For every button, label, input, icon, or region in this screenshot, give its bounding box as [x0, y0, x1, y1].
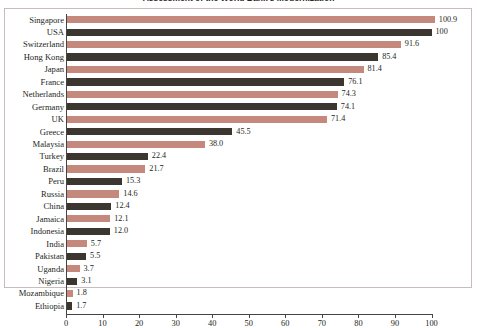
bar-row: Ethiopia1.7	[0, 300, 477, 313]
category-label: Uganda	[0, 263, 64, 276]
bar	[66, 16, 435, 23]
category-label: Jamaica	[0, 213, 64, 226]
bar-value-label: 3.7	[80, 263, 94, 276]
x-axis-tick	[212, 314, 213, 318]
x-axis-tick	[103, 314, 104, 318]
bar-row: Uganda3.7	[0, 263, 477, 276]
bar	[66, 278, 77, 285]
category-label: Nigeria	[0, 275, 64, 288]
category-label: Hong Kong	[0, 51, 64, 64]
x-axis-tick-label: 30	[171, 319, 179, 328]
bar-value-label: 12.1	[110, 213, 128, 226]
bar-value-label: 14.6	[119, 188, 137, 201]
bar	[66, 153, 148, 160]
category-label: Turkey	[0, 150, 64, 163]
bar	[66, 53, 378, 60]
category-label: Peru	[0, 175, 64, 188]
bar-row: Peru15.3	[0, 175, 477, 188]
category-label: China	[0, 200, 64, 213]
category-label: Singapore	[0, 14, 64, 27]
bar-value-label: 100.9	[435, 14, 457, 27]
bar-value-label: 5.5	[86, 250, 100, 263]
bar	[66, 66, 364, 73]
bar-row: USA100	[0, 26, 477, 39]
bar-value-label: 3.1	[77, 275, 91, 288]
bar-value-label: 5.7	[87, 238, 101, 251]
x-axis-tick	[139, 314, 140, 318]
category-label: Russia	[0, 188, 64, 201]
bar-row: Russia14.6	[0, 188, 477, 201]
bar-row: Hong Kong85.4	[0, 51, 477, 64]
bar-row: France76.1	[0, 76, 477, 89]
bar	[66, 116, 327, 123]
bar-value-label: 74.1	[337, 101, 355, 114]
bar-row: Nigeria3.1	[0, 275, 477, 288]
bar-value-label: 71.4	[327, 113, 345, 126]
x-axis-tick	[66, 314, 67, 318]
x-axis-tick-label: 100	[425, 319, 438, 328]
bar	[66, 165, 145, 172]
bar	[66, 265, 80, 272]
bar-row: Brazil21.7	[0, 163, 477, 176]
category-label: Brazil	[0, 163, 64, 176]
bar-row: Indonesia12.0	[0, 225, 477, 238]
x-axis-tick-label: 20	[135, 319, 143, 328]
x-axis-tick-label: 70	[318, 319, 326, 328]
bar	[66, 41, 401, 48]
bar	[66, 178, 122, 185]
bar-value-label: 15.3	[122, 175, 140, 188]
bar	[66, 128, 232, 135]
bar-value-label: 12.0	[110, 225, 128, 238]
bar-value-label: 22.4	[148, 150, 166, 163]
bar-row: Turkey22.4	[0, 150, 477, 163]
bar-row: Jamaica12.1	[0, 213, 477, 226]
category-label: India	[0, 238, 64, 251]
y-axis-line	[66, 14, 67, 315]
bar	[66, 190, 119, 197]
category-label: Greece	[0, 126, 64, 139]
bar-value-label: 100	[432, 26, 448, 39]
x-axis-tick-label: 0	[64, 319, 68, 328]
x-axis-tick-label: 90	[391, 319, 399, 328]
bar-row: Malaysia38.0	[0, 138, 477, 151]
bar-row: Switzerland91.6	[0, 38, 477, 51]
bar	[66, 203, 111, 210]
category-label: Germany	[0, 101, 64, 114]
bar-row: Mozambique1.8	[0, 287, 477, 300]
bar-row: Netherlands74.3	[0, 88, 477, 101]
bar-row: Japan81.4	[0, 63, 477, 76]
bar-value-label: 74.3	[338, 88, 356, 101]
x-axis-tick	[358, 314, 359, 318]
bar-value-label: 21.7	[145, 163, 163, 176]
bar-row: Greece45.5	[0, 126, 477, 139]
bar-value-label: 91.6	[401, 38, 419, 51]
bar	[66, 103, 337, 110]
x-axis-tick	[322, 314, 323, 318]
bar	[66, 91, 338, 98]
category-label: Japan	[0, 63, 64, 76]
bar	[66, 240, 87, 247]
category-label: Ethiopia	[0, 300, 64, 313]
bar-value-label: 1.7	[72, 300, 86, 313]
x-axis-tick-label: 60	[281, 319, 289, 328]
category-label: UK	[0, 113, 64, 126]
bar-row: China12.4	[0, 200, 477, 213]
bar-value-label: 12.4	[111, 200, 129, 213]
bar-value-label: 1.8	[73, 287, 87, 300]
category-label: France	[0, 76, 64, 89]
category-label: Netherlands	[0, 88, 64, 101]
bar-value-label: 38.0	[205, 138, 223, 151]
category-label: Mozambique	[0, 287, 64, 300]
bar	[66, 228, 110, 235]
bar-value-label: 85.4	[378, 51, 396, 64]
bar	[66, 253, 86, 260]
category-label: Malaysia	[0, 138, 64, 151]
x-axis-tick-label: 80	[354, 319, 362, 328]
category-label: Indonesia	[0, 225, 64, 238]
category-label: Pakistan	[0, 250, 64, 263]
bar-row: Germany74.1	[0, 101, 477, 114]
bar	[66, 215, 110, 222]
x-axis-tick-label: 40	[208, 319, 216, 328]
bar	[66, 29, 432, 36]
